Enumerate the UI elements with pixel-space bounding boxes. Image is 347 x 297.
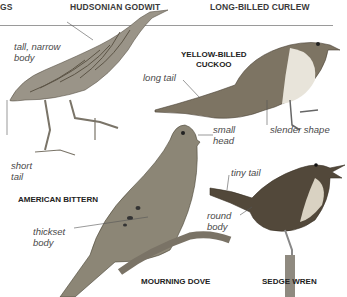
mourning-dove-illustration <box>60 125 230 297</box>
label-long-tail: long tail <box>143 72 176 83</box>
label-tiny-tail: tiny tail <box>231 167 261 178</box>
bird-name-american-bittern: AMERICAN BITTERN <box>18 195 98 205</box>
label-tall-narrow-body: tall, narrow body <box>14 41 60 63</box>
label-thickset-body: thickset body <box>33 226 65 248</box>
label-small-head: small head <box>213 124 235 146</box>
bird-name-yellow-billed-cuckoo: YELLOW-BILLED CUCKOO <box>181 50 247 70</box>
label-round-body: round body <box>207 210 231 232</box>
label-slender-shape: slender shape <box>270 124 330 135</box>
label-short-tail: short tail <box>11 160 32 182</box>
bird-name-mourning-dove: MOURNING DOVE <box>141 277 210 287</box>
bird-name-sedge-wren: SEDGE WREN <box>262 277 317 287</box>
